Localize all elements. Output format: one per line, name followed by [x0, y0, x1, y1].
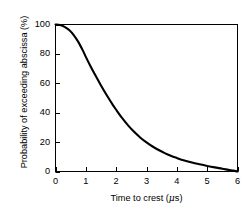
plot-frame	[56, 25, 238, 172]
y-axis-ticks	[56, 26, 61, 173]
plot-border	[56, 25, 238, 172]
chart-figure: Probability of exceeding abscissa (%) 02…	[0, 0, 252, 216]
x-axis-title-text: Time to crest (	[110, 193, 168, 203]
x-axis-tick-label: 3	[137, 177, 157, 186]
x-axis-tick-labels: 0123456	[0, 177, 252, 191]
data-series-line	[56, 25, 238, 172]
x-axis-tick-label: 0	[46, 177, 66, 186]
x-axis-tick-label: 6	[228, 177, 248, 186]
x-axis-tick-label: 4	[167, 177, 187, 186]
x-axis-title: Time to crest (μs)	[55, 192, 238, 203]
x-axis-tick-label: 2	[106, 177, 126, 186]
x-axis-title-tail: s)	[175, 193, 183, 203]
x-axis-tick-label: 5	[197, 177, 217, 186]
x-axis-tick-label: 1	[76, 177, 96, 186]
